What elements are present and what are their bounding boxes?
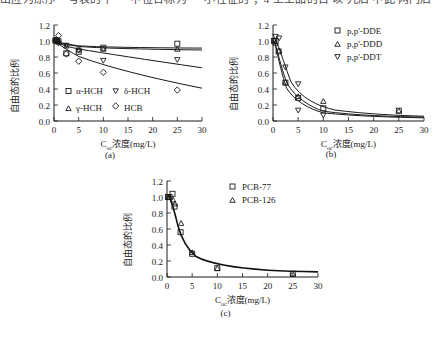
chart-panel-b: 自由态的比例 0.0 0.2 0.4 0.6 0.8 1.0 1.2 0 [225,12,437,152]
panel-b-legend-label-ddd: p,p'-DDD [347,39,383,49]
panel-a-legend-label-alpha-hch: α-HCH [76,86,103,96]
panel-a-xtick-6: 30 [198,125,208,135]
panel-c-xtick-4: 20 [263,281,273,291]
panel-b-ytick-2: 0.4 [258,85,270,95]
panel-c-caption: (c) [118,308,333,318]
panel-a-caption: (a) [6,150,214,160]
panel-a-xtick-0: 0 [52,125,57,135]
panel-a-legend-label-delta-hch: δ-HCH [124,86,151,96]
panel-c-ytick-5: 1.0 [152,193,164,203]
panel-b-ytick-1: 0.2 [258,101,269,111]
panel-b-svg: 自由态的比例 0.0 0.2 0.4 0.6 0.8 1.0 1.2 0 [225,12,437,152]
panel-c-x-axis-title-rest: 浓度(mg/L) [227,294,271,305]
chart-panel-a: 自由态的比例 0.0 0.2 0.4 0.6 0.8 1.0 1.2 [6,14,214,154]
panel-a-xtick-3: 15 [124,125,134,135]
panel-c-ytick-1: 0.2 [152,257,163,267]
panel-a-x-axis-title-rest: 浓度(mg/L) [112,138,156,149]
panel-b-legend-marker-ddd [335,42,340,47]
panel-c-legend-marker-pcb-126 [230,198,235,203]
panel-a-xtick-2: 10 [99,125,109,135]
panel-a-legend-marker-delta-hch [113,89,118,94]
panel-b-legend-marker-ddt [335,55,340,60]
panel-b-ytick-3: 0.6 [258,69,270,79]
panel-a-legend-marker-gamma-hch [66,106,71,111]
panel-a-ytick-2: 0.4 [39,85,51,95]
panel-b-xtick-6: 30 [420,125,430,135]
panel-c-curve-fit [169,195,319,272]
panel-b-xtick-3: 15 [344,125,354,135]
panel-a-svg: 自由态的比例 0.0 0.2 0.4 0.6 0.8 1.0 1.2 [6,14,214,154]
panel-c-ytick-2: 0.4 [152,241,164,251]
panel-b-ytick-5: 1.0 [258,37,270,47]
panel-c-y-axis-title: 自由态的比例 [122,213,133,267]
panel-c-xtick-5: 25 [288,281,298,291]
panel-b-points-ddd [271,38,401,113]
panel-c-xtick-1: 5 [190,281,195,291]
panel-c-x-axis-title: Coc浓度(mg/L) [215,294,270,307]
panel-a-legend-label-hcb: HCB [124,103,143,113]
panel-b-y-axis-title: 自由态的比例 [228,57,239,111]
panel-b-legend-label-ddt: p,p'-DDT [347,52,382,62]
panel-a-x-ticks [54,117,202,121]
panel-b-ytick-4: 0.8 [258,53,270,63]
panel-b-legend: p,p'-DDE p,p'-DDD p,p'-DDT [335,26,383,62]
panel-b-legend-marker-dde [335,28,340,33]
panel-b-caption: (b) [225,149,437,159]
panel-b-legend-label-dde: p,p'-DDE [347,26,382,36]
panel-b-x-axis-title-rest: 浓度(mg/L) [333,138,377,149]
panel-a-x-axis-title: Coc浓度(mg/L) [100,138,155,151]
panel-a-ytick-5: 1.0 [39,37,51,47]
panel-a-xtick-1: 5 [76,125,81,135]
cut-text-content: 出应为原序一号表的下 一 甲位台标为 一 小性征的 ；4 上上品的日 以 九后 … [0,0,432,5]
panel-c-points-pcb-126 [165,194,295,276]
panel-a-points-hcb [52,32,180,93]
panel-a-y-axis-title: 自由态的比例 [9,59,20,113]
panel-a-xtick-4: 20 [148,125,158,135]
panel-c-legend-label-pcb-77: PCB-77 [242,182,272,192]
panel-c-ytick-0: 0.0 [152,273,164,283]
panel-b-ytick-0: 0.0 [258,117,270,127]
panel-c-legend: PCB-77 PCB-126 [230,182,276,205]
panel-c-xtick-6: 30 [314,281,324,291]
panel-c-xtick-3: 15 [238,281,248,291]
panel-b-xtick-1: 5 [296,125,301,135]
panel-b-xtick-2: 10 [319,125,329,135]
panel-c-ytick-3: 0.6 [152,225,164,235]
panel-c-legend-label-pcb-126: PCB-126 [242,195,276,205]
chart-panel-c: 自由态的比例 0.0 0.2 0.4 0.6 0.8 1.0 1.2 0 [118,168,333,328]
panel-c-ytick-6: 1.2 [152,177,163,187]
panel-a-ytick-4: 0.8 [39,53,51,63]
panel-a-ytick-0: 0.0 [39,117,51,127]
panel-a-xtick-5: 25 [173,125,183,135]
panel-c-legend-marker-pcb-77 [230,184,235,189]
panel-a-legend-marker-alpha-hch [66,89,71,94]
panel-a-legend-label-gamma-hch: γ-HCH [75,103,102,113]
panel-c-xtick-2: 10 [213,281,223,291]
panel-c-ytick-4: 0.8 [152,209,164,219]
panel-a-legend: α-HCH δ-HCH γ-HCH HCB [66,86,151,113]
panel-a-ytick-3: 0.6 [39,69,51,79]
panel-b-xtick-4: 20 [369,125,379,135]
panel-b-points-dde [272,39,402,114]
panel-a-ytick-6: 1.2 [39,21,50,31]
panel-b-ytick-6: 1.2 [258,21,269,31]
panel-b-xtick-5: 25 [394,125,404,135]
panel-a-legend-marker-hcb [113,103,119,109]
panel-b-points-ddt [271,34,326,117]
panel-c-xtick-0: 0 [165,281,170,291]
panel-c-svg: 自由态的比例 0.0 0.2 0.4 0.6 0.8 1.0 1.2 0 [118,168,333,328]
panel-a-ytick-1: 0.2 [39,101,50,111]
panel-b-xtick-0: 0 [271,125,276,135]
panel-a-points-delta-hch [53,39,180,64]
panel-c-points-pcb-77 [166,191,296,276]
